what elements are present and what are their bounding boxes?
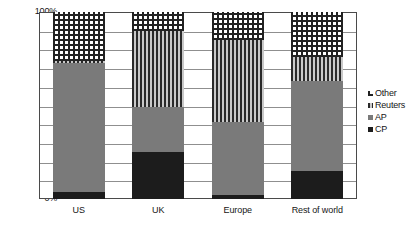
stacked-bar-chart: 100%90%80%70%60%50%40%30%20%10%0% USUKEu… bbox=[0, 0, 419, 230]
bar-segment-reuters[interactable] bbox=[212, 40, 264, 122]
legend-swatch-icon bbox=[368, 91, 373, 96]
legend-item-other[interactable]: Other bbox=[368, 88, 418, 99]
bar-segment-ap[interactable] bbox=[132, 107, 184, 152]
x-axis-tick-label: UK bbox=[113, 205, 203, 215]
bar-group[interactable] bbox=[291, 12, 343, 199]
legend-swatch-icon bbox=[368, 115, 373, 120]
bar-group[interactable] bbox=[132, 12, 184, 199]
x-axis-tick-label: Rest of world bbox=[272, 205, 362, 215]
chart-legend: OtherReutersAPCP bbox=[368, 88, 418, 136]
legend-item-ap[interactable]: AP bbox=[368, 112, 418, 123]
bar-segment-other[interactable] bbox=[291, 12, 343, 57]
legend-swatch-icon bbox=[368, 127, 373, 132]
legend-item-reuters[interactable]: Reuters bbox=[368, 100, 418, 111]
legend-item-label: Reuters bbox=[375, 101, 405, 110]
bar-stack bbox=[132, 12, 184, 199]
legend-item-label: Other bbox=[375, 89, 397, 98]
bar-segment-reuters[interactable] bbox=[291, 57, 343, 81]
bars-layer bbox=[39, 12, 357, 199]
bar-segment-cp[interactable] bbox=[291, 171, 343, 199]
bar-segment-reuters[interactable] bbox=[53, 61, 105, 63]
x-axis-tick-label: Europe bbox=[193, 205, 283, 215]
bar-group[interactable] bbox=[53, 12, 105, 199]
legend-item-label: AP bbox=[375, 113, 387, 122]
bar-group[interactable] bbox=[212, 12, 264, 199]
legend-item-cp[interactable]: CP bbox=[368, 124, 418, 135]
bar-stack bbox=[53, 12, 105, 199]
bar-segment-other[interactable] bbox=[212, 12, 264, 40]
bar-stack bbox=[291, 12, 343, 199]
bar-segment-ap[interactable] bbox=[212, 122, 264, 195]
bar-segment-ap[interactable] bbox=[291, 81, 343, 171]
bar-segment-ap[interactable] bbox=[53, 63, 105, 192]
bar-segment-cp[interactable] bbox=[212, 195, 264, 199]
bar-segment-reuters[interactable] bbox=[132, 31, 184, 108]
bar-segment-cp[interactable] bbox=[53, 192, 105, 199]
bar-segment-cp[interactable] bbox=[132, 152, 184, 199]
legend-item-label: CP bbox=[375, 125, 387, 134]
x-axis-tick-label: US bbox=[34, 205, 124, 215]
bar-segment-other[interactable] bbox=[132, 12, 184, 31]
bar-stack bbox=[212, 12, 264, 199]
bar-segment-other[interactable] bbox=[53, 12, 105, 61]
legend-swatch-icon bbox=[368, 103, 373, 108]
